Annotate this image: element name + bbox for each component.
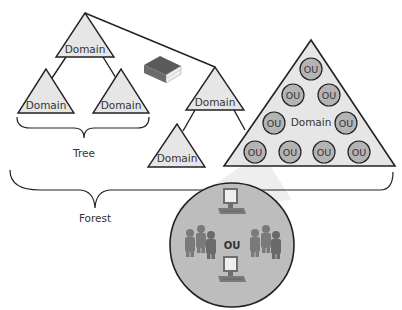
svg-text:OU: OU: [267, 118, 281, 129]
ou-circle[interactable]: OU: [335, 112, 357, 134]
domain-left-child-label: Domain: [26, 99, 67, 111]
domain-middle-label: Domain: [195, 96, 236, 108]
ou-circle-highlighted[interactable]: OU: [244, 141, 266, 163]
domain-lower[interactable]: Domain: [148, 124, 205, 167]
svg-text:OU: OU: [283, 147, 297, 158]
domain-right-child-label: Domain: [101, 99, 142, 111]
domain-lower-label: Domain: [157, 152, 198, 164]
domain-middle[interactable]: Domain: [186, 67, 244, 110]
svg-text:OU: OU: [339, 118, 353, 129]
svg-text:OU: OU: [304, 64, 318, 75]
ou-circle[interactable]: OU: [263, 112, 285, 134]
ou-circle[interactable]: OU: [279, 141, 301, 163]
ou-circle[interactable]: OU: [300, 58, 322, 80]
domain-root[interactable]: Domain: [56, 13, 114, 57]
ou-detail[interactable]: OU: [170, 183, 294, 307]
ou-circle[interactable]: OU: [318, 84, 340, 106]
tree-brace: [17, 117, 149, 138]
svg-text:OU: OU: [286, 90, 300, 101]
svg-text:OU: OU: [352, 147, 366, 158]
ou-circle[interactable]: OU: [348, 141, 370, 163]
domain-left-child[interactable]: Domain: [18, 69, 74, 113]
ou-detail-label: OU: [224, 240, 241, 251]
domain-large-label: Domain: [291, 116, 332, 128]
svg-text:OU: OU: [322, 90, 336, 101]
ou-circle[interactable]: OU: [282, 84, 304, 106]
forest-label: Forest: [79, 212, 111, 224]
tree-label: Tree: [72, 147, 95, 159]
svg-text:OU: OU: [248, 147, 262, 158]
ou-circle[interactable]: OU: [313, 141, 335, 163]
ad-structure-diagram: Domain Domain Domain Tree Domain Domain …: [0, 0, 402, 310]
schema-book-icon: [144, 56, 181, 83]
domain-right-child[interactable]: Domain: [93, 69, 149, 113]
domain-root-label: Domain: [65, 43, 106, 55]
svg-text:OU: OU: [317, 147, 331, 158]
